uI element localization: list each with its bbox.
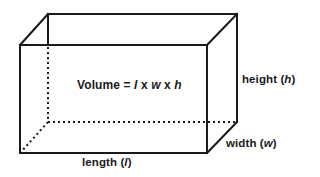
volume-formula: Volume = l x w x h	[77, 79, 182, 91]
formula-times-1: x	[137, 78, 151, 92]
formula-height-var: h	[174, 78, 181, 92]
length-label: length (l)	[82, 157, 132, 169]
width-var: w	[264, 137, 273, 149]
formula-times-2: x	[161, 78, 175, 92]
hidden-edge-bottom-left-diagonal	[20, 122, 48, 153]
length-label-close: )	[128, 156, 132, 168]
formula-width-var: w	[151, 78, 160, 92]
width-label-text: width (	[226, 137, 264, 149]
edge-top-right-diagonal	[207, 14, 237, 45]
width-label-close: )	[273, 137, 277, 149]
formula-prefix: Volume =	[77, 78, 134, 92]
length-label-text: length (	[82, 156, 124, 168]
height-label-text: height (	[242, 73, 284, 85]
height-label: height (h)	[242, 74, 295, 86]
edge-top-left-diagonal	[20, 14, 48, 45]
width-label: width (w)	[226, 138, 277, 150]
height-label-close: )	[291, 73, 295, 85]
